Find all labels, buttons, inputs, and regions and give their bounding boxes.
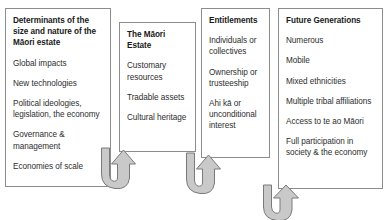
arrow-estate-to-entitlements-icon [183,153,229,197]
panel-item-list-future-generations: Numerous Mobile Mixed ethnicities Multip… [286,35,375,158]
list-item: Governance & management [13,129,103,151]
list-item: Ownership or trusteeship [209,67,262,89]
panel-item-list-maori-estate: Customary resources Tradable assets Cult… [127,60,188,123]
list-item: Numerous [286,35,375,46]
panel-future-generations: Future Generations Numerous Mobile Mixed… [278,8,383,189]
panel-title-future-generations: Future Generations [286,15,375,26]
panel-item-list-determinants: Global impacts New technologies Politica… [13,58,103,172]
list-item: Ahi kā or unconditional interest [209,98,262,132]
list-item: New technologies [13,78,103,89]
panel-entitlements: Entitlements Individuals or collectives … [201,8,270,158]
list-item: Customary resources [127,60,188,82]
panel-item-list-entitlements: Individuals or collectives Ownership or … [209,35,262,131]
list-item: Full participation in society & the econ… [286,136,375,158]
arrow-entitlements-to-future-icon [260,185,312,220]
panel-title-determinants: Determinants of the size and nature of t… [13,15,103,49]
list-item: Individuals or collectives [209,35,262,57]
panel-maori-estate: The Māori Estate Customary resources Tra… [119,22,196,152]
list-item: Tradable assets [127,92,188,103]
list-item: Cultural heritage [127,112,188,123]
flow-diagram: Determinants of the size and nature of t… [0,0,386,220]
panel-title-entitlements: Entitlements [209,15,262,26]
list-item: Economies of scale [13,161,103,172]
list-item: Mobile [286,55,375,66]
list-item: Political ideologies, legislation, the e… [13,98,103,120]
panel-determinants: Determinants of the size and nature of t… [5,8,111,187]
list-item: Multiple tribal affiliations [286,96,375,107]
list-item: Global impacts [13,58,103,69]
list-item: Mixed ethnicities [286,76,375,87]
list-item: Access to te ao Māori [286,116,375,127]
panel-title-maori-estate: The Māori Estate [127,29,188,51]
arrow-determinants-to-estate-icon [98,148,144,192]
